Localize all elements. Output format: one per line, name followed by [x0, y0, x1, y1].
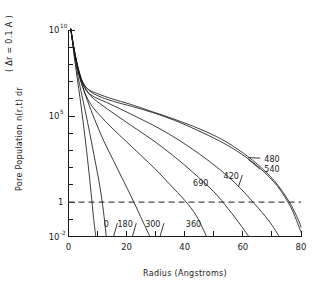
chart-canvas: 1010105110-2 020406080 01803003606904204… [0, 0, 321, 292]
curve-690 [71, 29, 249, 236]
x-tick-label: 60 [237, 242, 248, 252]
x-tick-labels: 020406080 [66, 242, 307, 252]
y-tick-mantissa: 10 [49, 111, 60, 121]
y-axis-title-note: ( Δr = 0.1 A ) [5, 15, 14, 72]
y-axis-note-group: ( Δr = 0.1 A ) [5, 15, 14, 72]
y-axis-title-group: Pore Population n(r,t) dr [15, 87, 24, 191]
curve-360 [71, 29, 207, 236]
curve-480 [71, 29, 301, 227]
curve-label-480: 480 [264, 155, 279, 164]
y-tick-label: 1010 [49, 23, 68, 35]
curve-label-420: 420 [224, 172, 239, 181]
x-tick-label: 40 [179, 242, 190, 252]
curve-0 [71, 29, 96, 236]
y-tick-label: 10-2 [49, 230, 66, 242]
curve-label-300: 300 [145, 220, 160, 229]
curve-label-540: 540 [264, 165, 279, 174]
leader-180 [132, 224, 136, 237]
y-tick-exponent: 5 [60, 109, 64, 115]
y-tick-mantissa: 10 [49, 25, 60, 35]
leader-300 [160, 224, 164, 237]
leader-420 [239, 175, 243, 186]
y-tick-label: 105 [49, 109, 64, 121]
x-tick-label: 20 [121, 242, 132, 252]
y-axis-title-main: Pore Population [15, 124, 24, 191]
y-tick-mantissa: 1 [58, 197, 63, 207]
curve-label-690: 690 [193, 179, 208, 188]
curve-label-360: 360 [186, 220, 201, 229]
y-tick-labels: 1010105110-2 [49, 23, 68, 242]
x-axis-title: Radius (Angstroms) [143, 269, 227, 278]
curve-group [71, 29, 301, 236]
y-axis-ticks [69, 30, 75, 237]
y-tick-mantissa: 10 [49, 232, 60, 242]
axis-lines [69, 30, 302, 237]
curve-300 [71, 29, 150, 236]
curve-labels: 0180300360690420480540 [104, 155, 280, 229]
x-tick-label: 80 [296, 242, 307, 252]
x-tick-label: 0 [66, 242, 71, 252]
curve-label-180: 180 [118, 220, 133, 229]
x-axis-ticks [69, 231, 302, 237]
curve-label-0: 0 [104, 220, 109, 229]
y-tick-exponent: 10 [60, 23, 68, 29]
curve-420 [71, 29, 279, 236]
y-tick-label: 1 [58, 197, 63, 207]
y-tick-exponent: -2 [60, 230, 66, 236]
pore-population-figure: 1010105110-2 020406080 01803003606904204… [0, 0, 321, 292]
leader-480 [249, 158, 260, 159]
leader-0 [114, 224, 118, 237]
y-axis-title-symbol: n(r,t) dr [15, 87, 24, 121]
